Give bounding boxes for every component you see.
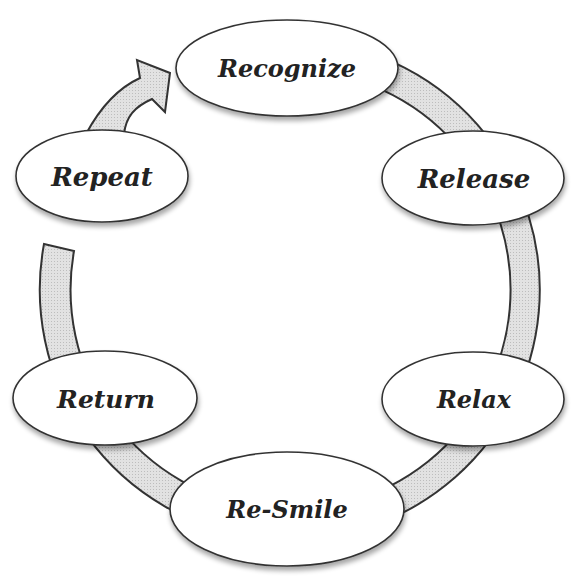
diagram-canvas: Recognize Release Relax Re-Smile Return …: [0, 0, 578, 585]
node-label-release: Release: [417, 164, 531, 194]
node-label-return: Return: [56, 385, 155, 414]
node-label-recognize: Recognize: [217, 54, 356, 83]
cycle-diagram: Recognize Release Relax Re-Smile Return …: [0, 0, 578, 585]
arrow-repeat-to-recognize: [86, 60, 170, 134]
node-label-relax: Relax: [436, 385, 512, 414]
node-label-re-smile: Re-Smile: [225, 495, 347, 524]
node-label-repeat: Repeat: [50, 162, 153, 192]
